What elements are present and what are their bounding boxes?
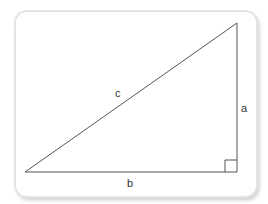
- right-angle-marker: [225, 160, 237, 172]
- vertical-leg-label: a: [241, 102, 248, 114]
- hypotenuse-line: [25, 23, 237, 172]
- triangle: [25, 23, 237, 172]
- hypotenuse-label: c: [115, 87, 121, 99]
- horizontal-leg-label: b: [127, 177, 133, 189]
- right-triangle-diagram: c a b: [0, 0, 268, 204]
